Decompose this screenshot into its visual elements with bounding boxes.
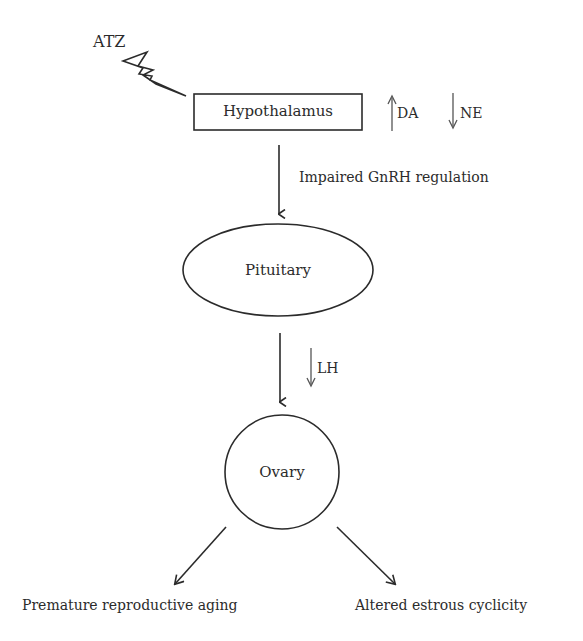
arrow-down-icon (449, 93, 457, 128)
stressor-label: ATZ (93, 34, 125, 50)
arrow-up-icon (388, 96, 396, 131)
ovary-label: Ovary (225, 465, 339, 480)
arrow-ovary-to-aging (175, 527, 226, 584)
diagram-canvas (0, 0, 583, 641)
arrow-ovary-to-cyclicity (337, 527, 395, 584)
outcome-cyclicity-label: Altered estrous cyclicity (355, 598, 527, 612)
effect-da-label: DA (397, 106, 418, 120)
edge-gnrh-label: Impaired GnRH regulation (299, 170, 489, 184)
arrow-down-icon (307, 348, 315, 386)
hypothalamus-label: Hypothalamus (194, 104, 362, 119)
effect-ne-label: NE (460, 106, 482, 120)
outcome-aging-label: Premature reproductive aging (22, 598, 237, 612)
lightning-bolt-icon (123, 52, 186, 96)
pituitary-label: Pituitary (183, 263, 373, 278)
edge-lh-label: LH (317, 361, 339, 375)
